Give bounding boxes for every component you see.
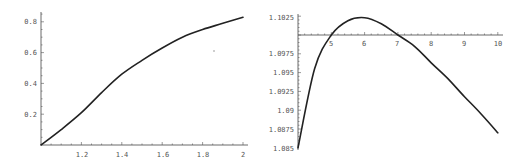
- x-tick-label: 7: [395, 40, 399, 48]
- y-tick-label: 1.0875: [269, 126, 294, 134]
- x-tick-label: 10: [494, 40, 502, 48]
- x-tick-label: 6: [362, 40, 366, 48]
- left-curve: [41, 17, 243, 145]
- x-tick-label: 9: [462, 40, 466, 48]
- x-tick-label: 1.8: [197, 151, 210, 159]
- right-chart: 5 6 7 8 9 10 1.1025 1.0975 1.095 1.0925 …: [269, 14, 503, 153]
- y-tick-label: 0.2: [24, 111, 37, 119]
- x-tick-label: 1.2: [76, 151, 89, 159]
- stray-dot: [213, 50, 214, 51]
- y-tick-label: 1.0975: [269, 50, 294, 58]
- y-tick-label: 1.095: [273, 69, 294, 77]
- left-y-tick-labels: 0.2 0.4 0.6 0.8: [24, 18, 37, 119]
- y-tick-label: 0.8: [24, 18, 37, 26]
- right-y-tick-labels: 1.1025 1.0975 1.095 1.0925 1.09 1.0875 1…: [269, 14, 294, 153]
- x-tick-label: 1.6: [157, 151, 170, 159]
- y-tick-label: 1.0925: [269, 88, 294, 96]
- x-tick-label: 5: [329, 40, 333, 48]
- y-tick-label: 1.085: [273, 145, 294, 153]
- y-tick-label: 0.4: [24, 80, 37, 88]
- figure: 1.2 1.4 1.6 1.8 2 0.2 0.4 0.6 0.8 5 6 7 …: [0, 0, 527, 163]
- left-chart: 1.2 1.4 1.6 1.8 2 0.2 0.4 0.6 0.8: [24, 12, 248, 159]
- x-tick-label: 2: [241, 151, 245, 159]
- left-x-tick-labels: 1.2 1.4 1.6 1.8 2: [76, 151, 245, 159]
- y-tick-label: 1.09: [277, 107, 294, 115]
- right-curve: [298, 18, 498, 148]
- x-tick-label: 1.4: [116, 151, 129, 159]
- y-tick-label: 1.1025: [269, 14, 294, 22]
- x-tick-label: 8: [429, 40, 433, 48]
- y-tick-label: 0.6: [24, 49, 37, 57]
- left-ticks: [41, 14, 243, 145]
